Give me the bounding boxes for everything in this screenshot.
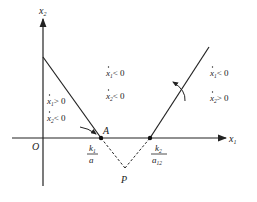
svg-text:x2< 0: x2< 0 [46, 113, 66, 124]
tick-label-k2-over-a12: k2 a12 [151, 143, 167, 166]
point-a-marker [99, 136, 103, 140]
y-axis-label: x2 [38, 5, 46, 17]
origin-label: O [32, 141, 39, 152]
region-middle-x1dot: x1< 0 [105, 66, 125, 79]
svg-text:a12: a12 [152, 155, 162, 166]
svg-text:x2< 0: x2< 0 [105, 91, 125, 102]
region-left-x1dot: x1> 0 [46, 94, 66, 107]
region-left-x2dot: x2< 0 [46, 111, 66, 124]
switching-line-left [43, 57, 101, 138]
point-b-marker [148, 136, 152, 140]
dashed-line-p-b [125, 138, 150, 168]
svg-text:a: a [89, 155, 94, 165]
region-right-x2dot: x2> 0 [209, 91, 229, 104]
x-axis-label: x1 [228, 133, 236, 145]
phase-plane-diagram: x2 x1 O A P k1 a k2 a12 x1> 0 x2< 0 x1< … [0, 0, 257, 202]
svg-text:x1< 0: x1< 0 [209, 68, 229, 79]
tick-label-k1-over-a: k1 a [87, 143, 98, 165]
svg-text:k1: k1 [89, 143, 96, 154]
svg-text:x1< 0: x1< 0 [105, 68, 125, 79]
region-middle-x2dot: x2< 0 [105, 89, 125, 102]
switching-line-right [150, 47, 209, 138]
point-p-label: P [120, 174, 127, 185]
svg-text:x1> 0: x1> 0 [46, 96, 66, 107]
svg-text:x2> 0: x2> 0 [209, 93, 229, 104]
region-right-x1dot: x1< 0 [209, 66, 229, 79]
svg-text:k2: k2 [155, 143, 162, 154]
point-a-label: A [102, 125, 110, 136]
dashed-line-a-p [101, 138, 125, 168]
trajectory-arrow-right [173, 82, 185, 101]
